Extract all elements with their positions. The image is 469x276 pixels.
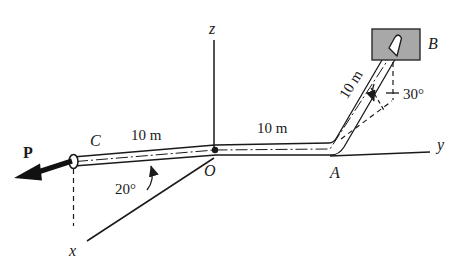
point-label-c: C	[90, 133, 101, 149]
angle-label-20: 20°	[115, 182, 136, 197]
origin-point-dot	[212, 147, 218, 153]
wall-block-b	[372, 29, 420, 60]
dimension-label-oc: 10 m	[131, 128, 161, 143]
force-label-p: P	[23, 145, 33, 161]
force-arrow-p-shaft	[38, 161, 72, 172]
dimension-label-oa: 10 m	[257, 121, 287, 136]
point-label-b: B	[428, 36, 438, 52]
bar-outline-upper	[73, 48, 389, 157]
y-axis-label: y	[437, 137, 444, 153]
point-label-o: O	[204, 163, 216, 179]
angle-label-30: 30°	[403, 87, 424, 102]
angle-arrow-20	[147, 166, 152, 190]
bar-assembly	[69, 48, 397, 169]
angle-arrow-30	[373, 84, 375, 101]
x-axis-line	[87, 158, 214, 241]
y-axis-line	[330, 152, 430, 156]
force-arrow-p	[14, 161, 72, 181]
point-label-a: A	[330, 165, 340, 181]
diagram-canvas	[0, 0, 469, 276]
force-arrow-p-head	[14, 164, 42, 181]
z-axis-label: z	[209, 21, 215, 37]
x-axis-label: x	[69, 243, 76, 259]
engineering-diagram: z y x O A B C 10 m 10 m 10 m 20° 30° P	[0, 0, 469, 276]
